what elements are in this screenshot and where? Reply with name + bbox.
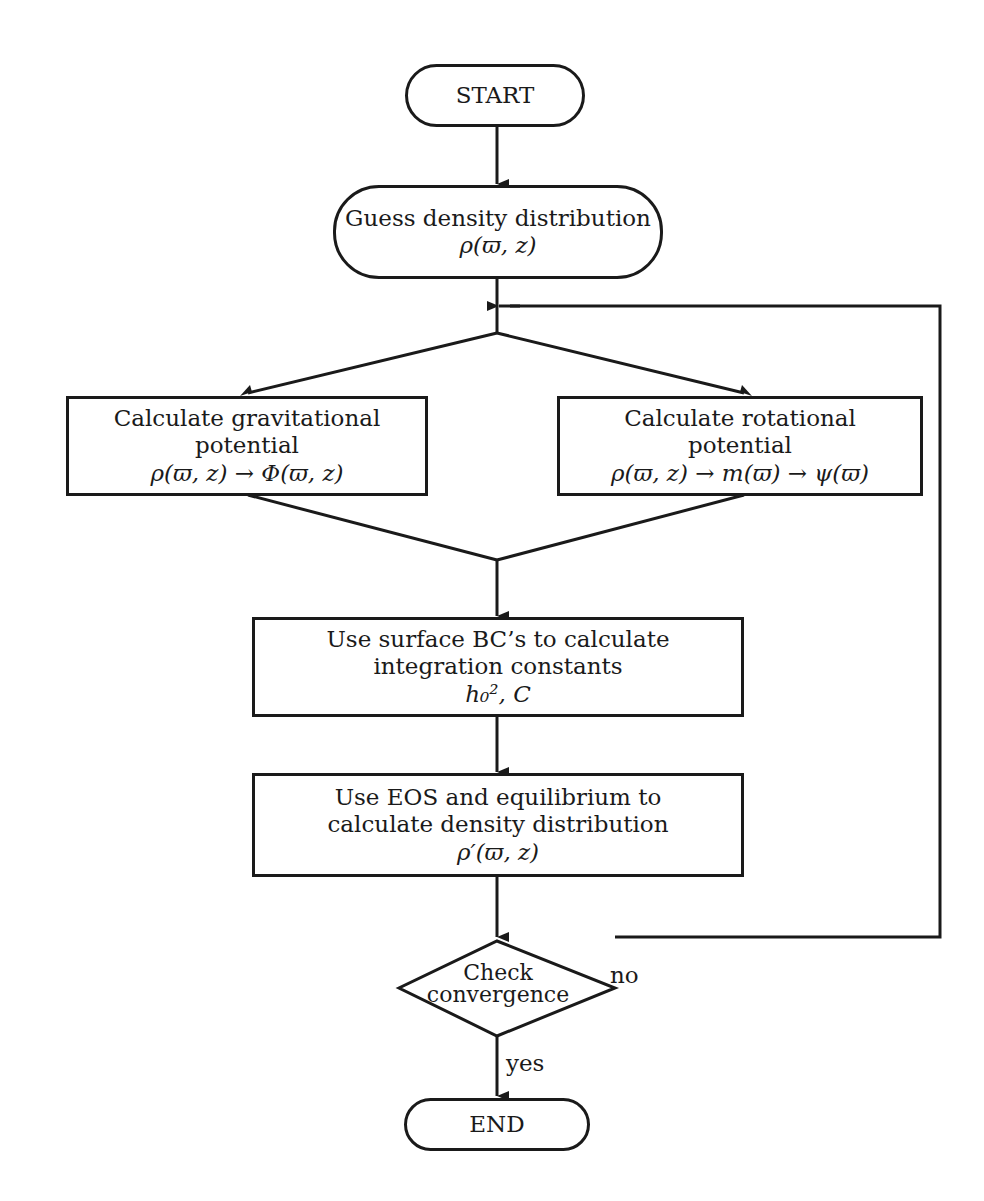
start-node: START — [405, 64, 585, 127]
rotational-line2: potential — [688, 432, 792, 459]
eos-math: ρ′(ϖ, z) — [457, 839, 539, 866]
gravitational-math: ρ(ϖ, z) → Φ(ϖ, z) — [150, 460, 343, 487]
edge-label-no: no — [610, 962, 639, 988]
merge-from-gravitational — [248, 495, 497, 560]
arrow-to-gravitational — [248, 333, 497, 393]
gravitational-line2: potential — [195, 432, 299, 459]
rotational-potential-node: Calculate rotational potential ρ(ϖ, z) →… — [557, 396, 923, 496]
surface-bc-line1: Use surface BC’s to calculate — [326, 626, 669, 653]
rotational-math: ρ(ϖ, z) → m(ϖ) → ψ(ϖ) — [611, 460, 869, 487]
gravitational-line1: Calculate gravitational — [114, 405, 381, 432]
merge-from-rotational — [497, 495, 744, 560]
end-label: END — [469, 1111, 524, 1138]
arrow-to-rotational — [497, 333, 744, 393]
check-line1: Check — [420, 962, 576, 984]
guess-density-math: ρ(ϖ, z) — [460, 232, 537, 259]
connectors — [0, 0, 984, 1201]
surface-bc-line2: integration constants — [373, 653, 622, 680]
rotational-line1: Calculate rotational — [624, 405, 856, 432]
check-convergence-label: Check convergence — [420, 962, 576, 1006]
edge-label-yes: yes — [506, 1050, 544, 1076]
guess-density-node: Guess density distribution ρ(ϖ, z) — [333, 185, 663, 279]
gravitational-potential-node: Calculate gravitational potential ρ(ϖ, z… — [66, 396, 428, 496]
check-line2: convergence — [420, 984, 576, 1006]
surface-bc-math: h₀², C — [465, 681, 530, 708]
surface-bc-node: Use surface BC’s to calculate integratio… — [252, 617, 744, 717]
eos-line2: calculate density distribution — [327, 811, 668, 838]
start-label: START — [456, 82, 535, 109]
eos-line1: Use EOS and equilibrium to — [335, 784, 662, 811]
end-node: END — [404, 1098, 590, 1151]
flowchart: START Guess density distribution ρ(ϖ, z)… — [0, 0, 984, 1201]
eos-equilibrium-node: Use EOS and equilibrium to calculate den… — [252, 773, 744, 877]
guess-density-label: Guess density distribution — [345, 205, 651, 232]
